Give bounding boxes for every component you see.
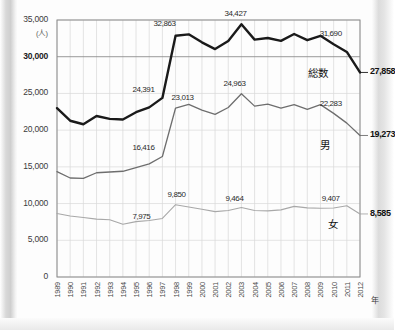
x-axis-tick-label: 1992 <box>93 282 102 298</box>
y-axis-tick-label: 35,000 <box>4 14 48 24</box>
x-axis-tick-label: 2009 <box>316 282 325 298</box>
series-end-value-男: 19,273 <box>370 129 395 139</box>
x-axis-tick-label: 2003 <box>237 282 246 298</box>
x-axis-tick-label: 1993 <box>106 282 115 298</box>
y-axis-tick-label: 25,000 <box>4 87 48 97</box>
data-point-label: 34,427 <box>224 9 246 18</box>
x-axis-tick-label: 2004 <box>251 282 260 298</box>
x-axis-tick-label: 2000 <box>198 282 207 298</box>
data-point-label: 9,407 <box>322 194 340 203</box>
series-end-value-総数: 27,858 <box>370 66 395 76</box>
x-axis-tick-label: 1991 <box>79 282 88 298</box>
series-line-男 <box>57 94 360 179</box>
x-axis-tick-label: 2001 <box>211 282 220 298</box>
x-axis-tick-label: 2007 <box>290 282 299 298</box>
y-axis-unit-label: (人) <box>4 27 48 38</box>
x-axis-tick-label: 2002 <box>224 282 233 298</box>
x-axis-tick-label: 1994 <box>119 282 128 298</box>
x-axis-tick-label: 2006 <box>277 282 286 298</box>
x-axis-tick-label: 2010 <box>330 282 339 298</box>
series-line-女 <box>57 205 360 225</box>
y-axis-tick-label: 20,000 <box>4 124 48 134</box>
plot-frame <box>57 20 360 277</box>
x-axis-tick-label: 1998 <box>172 282 181 298</box>
x-axis-tick-label: 2012 <box>356 282 365 298</box>
x-axis-tick-label: 1995 <box>132 282 141 298</box>
y-axis-tick-label: 30,000 <box>4 51 48 61</box>
data-point-label: 22,283 <box>320 99 342 108</box>
series-end-value-女: 8,585 <box>370 208 391 218</box>
series-label-女: 女 <box>328 216 338 231</box>
y-axis-tick-label: 10,000 <box>4 198 48 208</box>
x-axis-tick-label: 1989 <box>53 282 62 298</box>
data-point-label: 32,863 <box>154 19 176 28</box>
y-axis-tick-label: 5,000 <box>4 234 48 244</box>
x-axis-tick-label: 1997 <box>158 282 167 298</box>
data-point-label: 31,690 <box>320 29 342 38</box>
x-axis-tick-label: 2008 <box>303 282 312 298</box>
y-axis-tick-label: 15,000 <box>4 161 48 171</box>
data-point-label: 16,416 <box>132 143 154 152</box>
data-point-label: 24,963 <box>223 79 245 88</box>
x-axis-tick-label: 1990 <box>66 282 75 298</box>
x-axis-tick-label: 2011 <box>343 282 352 297</box>
x-axis-tick-label: 1999 <box>185 282 194 298</box>
data-point-label: 9,850 <box>168 190 186 199</box>
data-point-label: 23,013 <box>172 93 194 102</box>
x-axis-unit-label: 年 <box>371 294 379 305</box>
data-point-label: 7,975 <box>132 212 150 221</box>
y-axis-tick-label: 0 <box>4 271 48 281</box>
series-label-総数: 総数 <box>308 65 328 80</box>
data-point-label: 24,391 <box>132 85 154 94</box>
x-axis-tick-label: 2005 <box>264 282 273 298</box>
data-point-label: 9,464 <box>225 194 243 203</box>
x-axis-tick-label: 1996 <box>145 282 154 298</box>
series-label-男: 男 <box>320 137 330 152</box>
